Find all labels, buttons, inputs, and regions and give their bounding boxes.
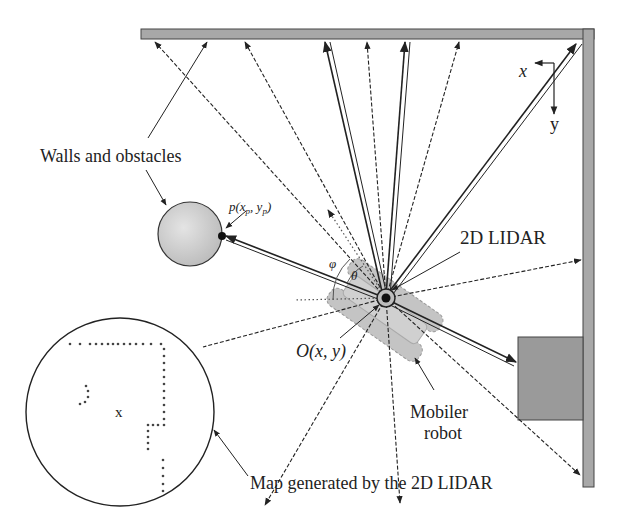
hit-point-p (218, 232, 226, 240)
lidar-sensor (377, 289, 395, 307)
walls-obstacles-label: Walls and obstacles (40, 146, 182, 166)
point-p-label: p(xp, yp) (228, 199, 271, 216)
lidar-label: 2D LIDAR (460, 227, 546, 248)
box-obstacle (518, 337, 583, 420)
origin-label: O(x, y) (296, 341, 346, 362)
phi-label: φ (329, 256, 336, 271)
map-inset: x (26, 318, 214, 506)
robot-label-line1: Mobiler (410, 402, 468, 422)
coordinate-axes (535, 63, 554, 114)
map-robot-marker: x (115, 404, 123, 420)
circle-obstacle (158, 202, 222, 266)
map-caption: Map generated by the 2D LIDAR (250, 473, 492, 493)
axis-y-label: y (550, 114, 559, 134)
robot-label-line2: robot (424, 423, 462, 443)
axis-x-label: x (518, 61, 527, 81)
lidar-mapping-diagram: x y x (0, 0, 617, 530)
theta-label: θ (351, 268, 358, 283)
right-wall (583, 29, 594, 487)
top-wall (141, 29, 594, 39)
